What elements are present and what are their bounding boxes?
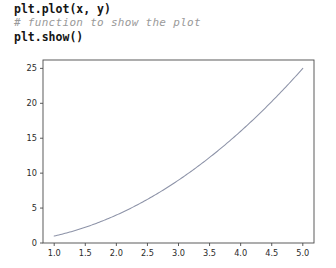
y-tick-label: 0	[32, 238, 37, 248]
x-tick-label: 1.0	[48, 248, 61, 258]
x-tick-label: 1.5	[79, 248, 92, 258]
x-tick-label: 2.5	[141, 248, 154, 258]
code-block: plt.plot(x, y) # function to show the pl…	[14, 2, 332, 44]
matplotlib-figure: 0510152025 1.01.52.02.53.03.54.04.55.0	[0, 48, 336, 268]
y-tick-label: 25	[27, 63, 37, 73]
code-line-comment: # function to show the plot	[14, 16, 332, 30]
x-tick-label: 2.0	[110, 248, 123, 258]
x-tick-label: 4.0	[234, 248, 247, 258]
plot-canvas: 0510152025 1.01.52.02.53.03.54.04.55.0	[0, 48, 336, 268]
code-line-1: plt.plot(x, y)	[14, 2, 332, 16]
x-tick-label: 5.0	[296, 248, 309, 258]
y-tick-label: 20	[27, 98, 37, 108]
figure-background	[0, 48, 336, 268]
x-tick-label: 4.5	[265, 248, 278, 258]
x-tick-label: 3.5	[203, 248, 216, 258]
y-tick-label: 15	[27, 133, 37, 143]
y-tick-label: 5	[32, 203, 37, 213]
code-line-3: plt.show()	[14, 30, 332, 44]
x-tick-label: 3.0	[172, 248, 185, 258]
y-tick-label: 10	[27, 168, 37, 178]
